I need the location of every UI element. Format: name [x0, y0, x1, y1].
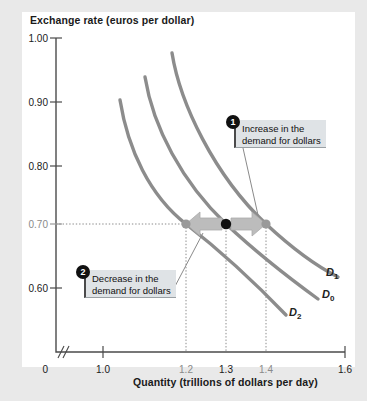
callout-1-line-2: demand for dollars: [242, 135, 321, 147]
callout-1-badge: 1: [226, 115, 240, 129]
increase-equilibrium-point: [261, 219, 270, 228]
curve-label-D0-text: D: [322, 288, 330, 300]
demand-curve-D1: [172, 53, 338, 277]
callout-2-line-2: demand for dollars: [92, 285, 171, 297]
curve-label-D1-text: D: [326, 266, 334, 278]
callout-increase-demand: Increase in the demand for dollars: [234, 120, 326, 148]
figure-container: Exchange rate (euros per dollar) Quantit…: [0, 0, 367, 401]
curve-label-D1-sub: 1: [334, 272, 338, 281]
callout-1-line-1: Increase in the: [242, 123, 321, 135]
curve-label-D0: D0: [322, 288, 334, 303]
curve-label-D2: D2: [289, 306, 301, 321]
callout-2-leader-line: [172, 233, 203, 292]
callout-2-line-1: Decrease in the: [92, 273, 171, 285]
curve-label-D1: D1: [326, 266, 338, 281]
curve-label-D2-sub: 2: [297, 312, 301, 321]
callout-2-badge: 2: [76, 265, 90, 279]
demand-curve-D0: [145, 77, 318, 299]
initial-equilibrium-point: [221, 219, 231, 229]
callout-1-leader-line: [243, 148, 258, 215]
callout-decrease-demand: Decrease in the demand for dollars: [84, 270, 176, 298]
curve-label-D2-text: D: [289, 306, 297, 318]
curve-label-D0-sub: 0: [330, 294, 334, 303]
decrease-equilibrium-point: [181, 219, 190, 228]
chart-plot-area: [0, 0, 367, 401]
